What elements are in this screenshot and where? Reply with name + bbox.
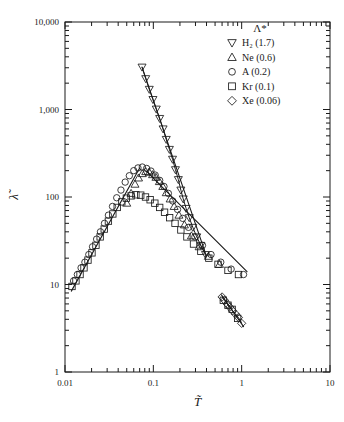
figure-container: 0.010.11101101001,00010,000T̃λ̃Λ*H₂ (1.7… bbox=[0, 0, 344, 422]
y-axis-label: λ̃ bbox=[6, 188, 21, 201]
legend-marker-Ne bbox=[228, 53, 237, 60]
data-point-circle bbox=[74, 271, 80, 277]
legend-marker-H2 bbox=[228, 40, 237, 47]
data-point-square bbox=[190, 241, 196, 247]
legend-label-Xe: Xe (0.06) bbox=[242, 95, 280, 107]
y-tick-label: 100 bbox=[46, 192, 60, 202]
legend-marker-Xe bbox=[228, 96, 237, 105]
data-point-square bbox=[156, 204, 162, 210]
x-tick-label: 0.1 bbox=[148, 378, 159, 388]
x-tick-label: 0.01 bbox=[57, 378, 73, 388]
chart-plot: 0.010.11101101001,00010,000T̃λ̃Λ*H₂ (1.7… bbox=[0, 0, 344, 422]
x-axis-label: T̃ bbox=[194, 394, 202, 409]
x-tick-label: 1 bbox=[239, 378, 244, 388]
legend-marker-Kr bbox=[229, 83, 236, 90]
legend-title: Λ* bbox=[253, 22, 266, 34]
svg-text:λ̃: λ̃ bbox=[6, 188, 21, 201]
y-tick-label: 1,000 bbox=[39, 105, 60, 115]
y-tick-label: 1 bbox=[55, 367, 60, 377]
legend-label-A: A (0.2) bbox=[242, 66, 270, 78]
data-point-circle bbox=[118, 187, 124, 193]
data-point-square bbox=[142, 194, 148, 200]
x-tick-label: 10 bbox=[326, 378, 336, 388]
y-tick-label: 10,000 bbox=[34, 17, 59, 27]
data-point-circle bbox=[122, 179, 128, 185]
legend-label-Ne: Ne (0.6) bbox=[242, 52, 275, 64]
data-point-square bbox=[138, 192, 144, 198]
legend-label-Kr: Kr (0.1) bbox=[242, 81, 274, 93]
guide-line-left-rising-branch bbox=[71, 168, 139, 291]
y-tick-label: 10 bbox=[50, 280, 60, 290]
svg-text:T̃: T̃ bbox=[194, 394, 202, 409]
legend-label-H2: H₂ (1.7) bbox=[242, 37, 274, 49]
legend-marker-A bbox=[229, 68, 236, 75]
plot-frame bbox=[65, 22, 330, 372]
